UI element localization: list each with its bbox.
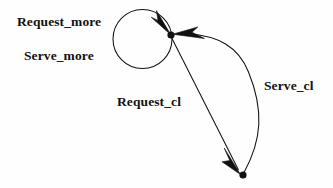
label-serve-more: Serve_more bbox=[24, 49, 94, 63]
serve-cl-curve bbox=[188, 34, 259, 173]
label-serve-cl: Serve_cl bbox=[264, 79, 314, 93]
label-request-cl: Request_cl bbox=[117, 95, 181, 109]
label-request-more: Request_more bbox=[17, 15, 101, 29]
self-loop-arrowhead-icon bbox=[151, 11, 171, 35]
request-cl-line bbox=[172, 38, 239, 171]
serve-cl-arrowhead-icon bbox=[173, 27, 205, 39]
self-loop-circle bbox=[113, 10, 172, 69]
state-diagram: Request_more Serve_more Request_cl Serve… bbox=[0, 0, 333, 188]
top-state-node bbox=[167, 31, 174, 38]
bottom-state-node bbox=[239, 171, 246, 178]
request-cl-arrowhead-icon bbox=[222, 148, 241, 175]
